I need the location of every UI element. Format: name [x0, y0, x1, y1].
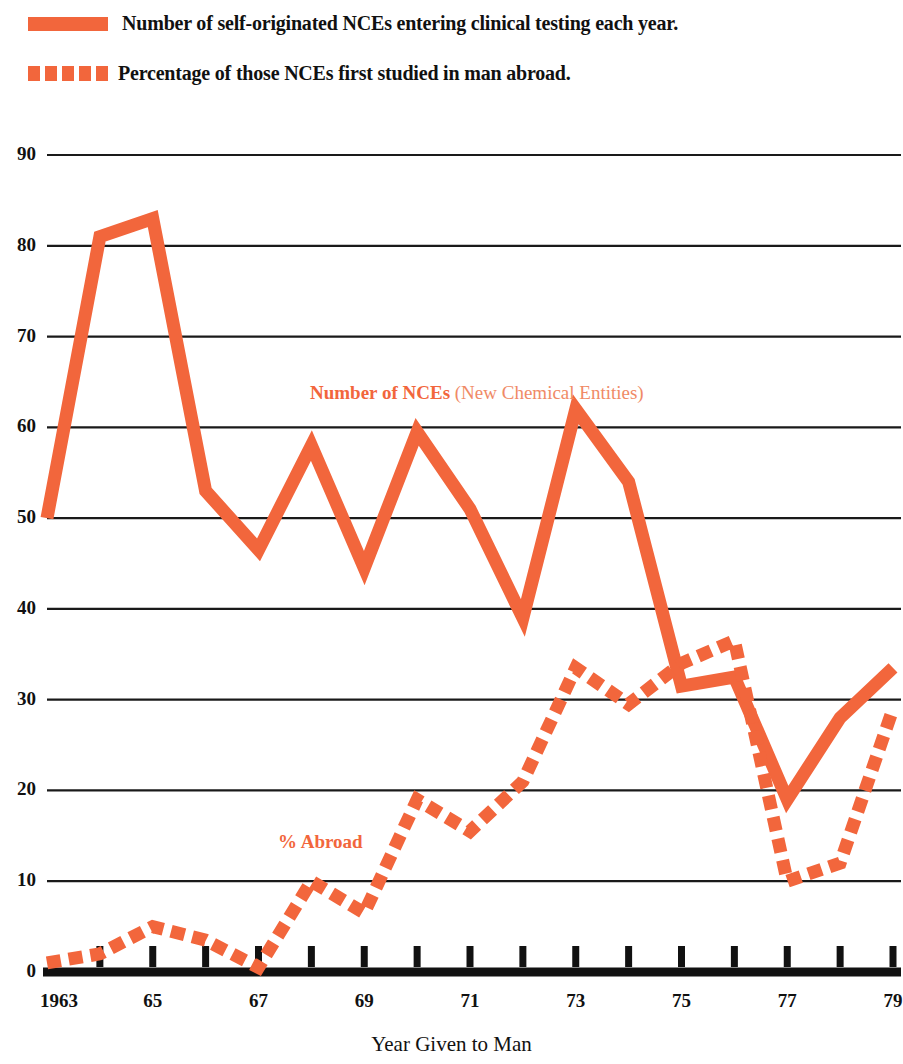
line-chart: Number of NCEs (New Chemical Entities) %… [0, 0, 903, 1064]
x-axis [43, 946, 901, 972]
x-axis-tick-label: 65 [133, 990, 173, 1012]
annotation-nce-light: (New Chemical Entities) [455, 382, 644, 403]
x-axis-tick-label: 1963 [29, 990, 89, 1012]
y-axis-tick-label: 80 [2, 234, 36, 256]
series-line-nce-count [47, 219, 893, 800]
x-axis-tick-label: 71 [450, 990, 490, 1012]
y-axis-tick-label: 0 [2, 960, 36, 982]
x-axis-tick-label: 69 [344, 990, 384, 1012]
chart-canvas [0, 0, 903, 1064]
y-axis-tick-label: 40 [2, 597, 36, 619]
x-axis-title: Year Given to Man [0, 1032, 903, 1057]
x-axis-tick-label: 75 [662, 990, 702, 1012]
x-axis-tick-label: 73 [556, 990, 596, 1012]
y-axis-tick-label: 10 [2, 869, 36, 891]
x-axis-tick-label: 67 [239, 990, 279, 1012]
y-axis-tick-label: 60 [2, 415, 36, 437]
y-axis-tick-label: 90 [2, 143, 36, 165]
y-axis-tick-label: 20 [2, 778, 36, 800]
x-axis-tick-label: 77 [767, 990, 807, 1012]
y-axis-tick-label: 70 [2, 325, 36, 347]
annotation-number-of-nces: Number of NCEs (New Chemical Entities) [310, 382, 644, 404]
series-line-percent-abroad [47, 641, 893, 968]
y-axis-tick-label: 50 [2, 506, 36, 528]
annotation-nce-bold: Number of NCEs [310, 382, 450, 403]
y-axis-tick-label: 30 [2, 688, 36, 710]
x-axis-tick-label: 79 [873, 990, 903, 1012]
annotation-percent-abroad: % Abroad [278, 831, 363, 853]
